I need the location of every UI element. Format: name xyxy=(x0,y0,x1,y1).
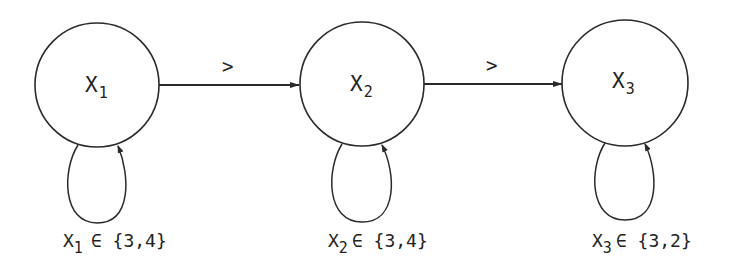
domain-label-x2: X2∈ {3,4} xyxy=(328,230,428,257)
self-loop-x3 xyxy=(595,143,654,220)
self-loop-x1 xyxy=(68,145,126,223)
edge-x1-x2: > xyxy=(159,55,299,85)
edge-x2-x3-label: > xyxy=(486,54,497,76)
node-x1-label: X1 xyxy=(85,73,108,102)
node-x3-label: X3 xyxy=(612,69,635,98)
domain-label-x3: X3∈ {3,2} xyxy=(592,230,692,257)
self-loop-x2 xyxy=(332,144,392,222)
constraint-graph: X1 X2 X3 > > X1∈ {3,4} X2∈ {3,4} X3∈ {3,… xyxy=(0,0,734,273)
domain-label-x1: X1∈ {3,4} xyxy=(63,230,167,257)
node-x2-label: X2 xyxy=(350,72,373,101)
node-x1: X1 xyxy=(35,23,159,147)
edge-x1-x2-label: > xyxy=(222,55,233,77)
edge-x2-x3: > xyxy=(424,54,562,84)
node-x3: X3 xyxy=(562,20,688,146)
node-x2: X2 xyxy=(300,22,424,146)
